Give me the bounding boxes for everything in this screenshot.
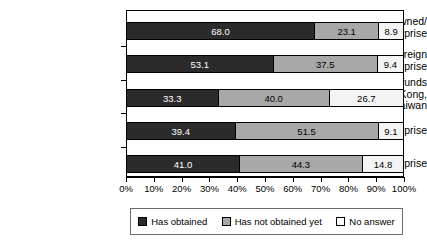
bar-segment-has-not-obtained-yet: 23.1 [315,22,379,40]
bar-value-label: 40.0 [264,93,283,104]
bar-value-label: 51.5 [297,126,316,137]
bar-segment-no-answer: 9.4 [378,55,404,73]
legend-label: Has not obtained yet [235,216,322,227]
x-axis-tick [404,177,405,182]
bar-segment-has-not-obtained-yet: 40.0 [219,89,330,107]
legend-item-has-not-obtained-yet: Has not obtained yet [222,216,322,227]
bar-value-label: 44.3 [292,159,311,170]
bar-row: 41.0 44.3 14.8 [126,155,404,173]
x-axis-tick [321,177,322,182]
bar-value-label: 68.0 [211,26,230,37]
bar-value-label: 39.4 [172,126,191,137]
bar-row: 39.4 51.5 9.1 [126,122,404,140]
bar-segment-has-obtained: 33.3 [126,89,219,107]
y-axis-tick [121,80,127,81]
bar-value-label: 9.4 [384,59,397,70]
legend-label: Has obtained [151,216,207,227]
bar-value-label: 53.1 [191,59,210,70]
x-axis-tick [265,177,266,182]
x-axis-label-100: 100% [387,183,421,194]
bar-segment-no-answer: 8.9 [379,22,404,40]
bar-segment-has-not-obtained-yet: 37.5 [274,55,378,73]
legend-item-has-obtained: Has obtained [138,216,207,227]
x-axis-tick [126,177,127,182]
bar-segment-has-not-obtained-yet: 44.3 [240,155,363,173]
stacked-bar-chart: State-owned/ state-holding enterprise Fo… [0,0,427,250]
legend-swatch-icon [222,217,231,226]
x-axis-tick [237,177,238,182]
x-axis-tick [348,177,349,182]
bar-value-label: 41.0 [174,159,193,170]
bar-segment-has-obtained: 39.4 [126,122,236,140]
y-axis-tick [121,113,127,114]
bar-segment-no-answer: 14.8 [363,155,404,173]
bar-value-label: 37.5 [316,59,335,70]
bar-segment-no-answer: 9.1 [379,122,404,140]
x-axis-tick [154,177,155,182]
bar-row: 33.3 40.0 26.7 [126,89,404,107]
x-axis-tick [182,177,183,182]
bar-segment-has-obtained: 41.0 [126,155,240,173]
legend-swatch-icon [336,217,345,226]
bar-value-label: 14.8 [374,159,393,170]
chart-legend: Has obtained Has not obtained yet No ans… [130,208,403,235]
bar-segment-has-not-obtained-yet: 51.5 [236,122,379,140]
bar-value-label: 26.7 [357,93,376,104]
legend-item-no-answer: No answer [336,216,394,227]
bar-value-label: 23.1 [337,26,356,37]
bar-value-label: 8.9 [384,26,397,37]
bar-segment-no-answer: 26.7 [330,89,404,107]
bar-segment-has-obtained: 68.0 [126,22,315,40]
bar-value-label: 9.1 [384,126,397,137]
x-axis-tick [209,177,210,182]
bar-segment-has-obtained: 53.1 [126,55,274,73]
y-axis-tick [121,147,127,148]
bar-row: 68.0 23.1 8.9 [126,22,404,40]
bar-row: 53.1 37.5 9.4 [126,55,404,73]
x-axis-tick [376,177,377,182]
x-axis-tick [293,177,294,182]
y-axis-tick [121,46,127,47]
legend-swatch-icon [138,217,147,226]
legend-label: No answer [349,216,394,227]
bar-value-label: 33.3 [163,93,182,104]
